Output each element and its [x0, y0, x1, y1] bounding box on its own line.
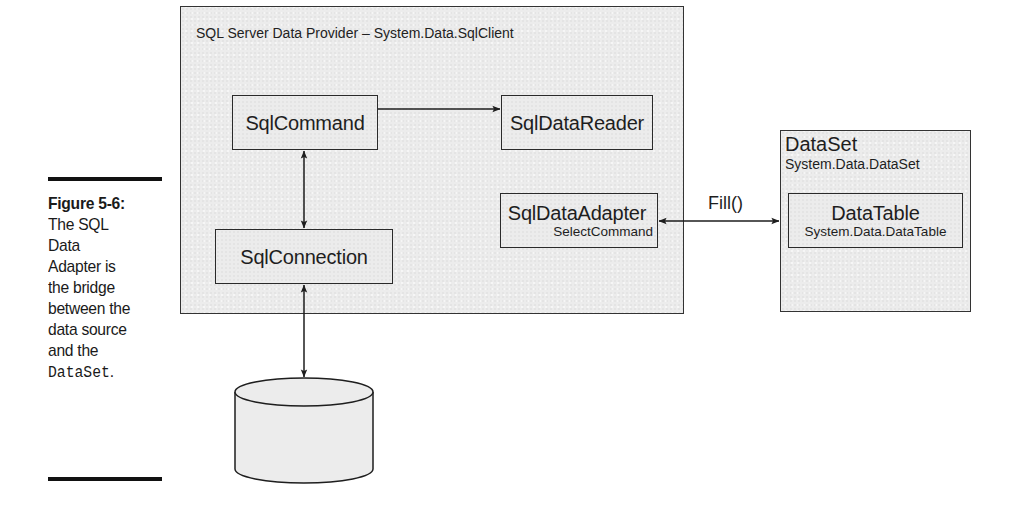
sqlconnection-node: SqlConnection: [215, 229, 393, 284]
fill-connector-label: Fill(): [708, 193, 743, 214]
caption-line: The SQL: [48, 214, 158, 235]
caption-punct: .: [110, 362, 114, 381]
dataset-title: DataSet: [785, 133, 857, 155]
database-server: SQL Server 2005: [235, 443, 373, 463]
sqlconnection-label: SqlConnection: [240, 246, 368, 268]
caption-line: Data: [48, 235, 158, 256]
caption-line: and the: [48, 340, 158, 361]
caption-line: between the: [48, 298, 158, 319]
sqldataadapter-sublabel: SelectCommand: [553, 224, 653, 239]
caption-code-term: DataSet: [48, 364, 110, 382]
sqlcommand-node: SqlCommand: [232, 95, 378, 150]
figure-label: Figure 5-6:: [48, 193, 158, 214]
sqldataadapter-label: SqlDataAdapter: [508, 202, 646, 224]
sqldatareader-label: SqlDataReader: [510, 112, 644, 134]
datatable-sublabel: System.Data.DataTable: [805, 224, 947, 239]
sqldatareader-node: SqlDataReader: [501, 95, 653, 150]
caption-line: Adapter is: [48, 256, 158, 277]
datatable-node: DataTable System.Data.DataTable: [788, 193, 963, 248]
sqldataadapter-node: SqlDataAdapter SelectCommand: [500, 193, 658, 248]
dataset-subtitle: System.Data.DataSet: [785, 156, 920, 172]
caption-top-rule: [48, 177, 162, 181]
caption-bottom-rule: [48, 477, 162, 481]
caption-line: data source: [48, 319, 158, 340]
caption-line: the bridge: [48, 277, 158, 298]
sqlcommand-label: SqlCommand: [245, 112, 364, 134]
database-name: AdventureWorks: [235, 422, 373, 442]
figure-caption: Figure 5-6: The SQL Data Adapter is the …: [48, 193, 158, 384]
provider-title: SQL Server Data Provider – System.Data.S…: [196, 25, 514, 41]
datatable-label: DataTable: [831, 202, 919, 224]
